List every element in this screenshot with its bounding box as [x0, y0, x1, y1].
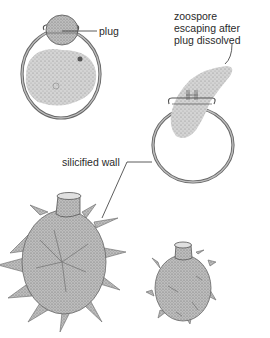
- diagram-canvas: plug zoospore escaping after plug dissol…: [0, 0, 270, 338]
- zoospore-label-line1: zoospore: [174, 10, 254, 22]
- plug-label: plug: [99, 25, 119, 37]
- silicified-wall-leader: [102, 162, 152, 218]
- diagram-artwork: [0, 0, 270, 338]
- zoospore-label-line2: escaping after: [174, 22, 254, 34]
- zoospore-label-line3: plug dissolved: [174, 34, 254, 46]
- spiny-cyst-large-figure: [0, 193, 126, 333]
- spiny-cyst-small-figure: [146, 242, 216, 324]
- zoospore-escaping-label: zoospore escaping after plug dissolved: [174, 10, 254, 46]
- cyst-with-plug-figure: [22, 15, 100, 118]
- zoospore-escaping-figure: [153, 44, 233, 182]
- silicified-wall-label: silicified wall: [62, 156, 120, 168]
